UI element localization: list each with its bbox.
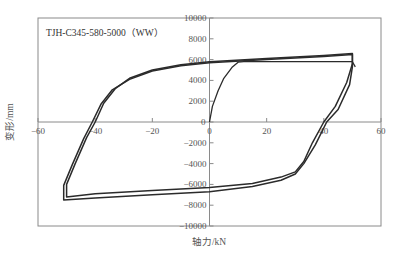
- y-tick-label: −10000: [179, 221, 207, 231]
- y-tick-label: −8000: [183, 200, 207, 210]
- x-tick-label: 60: [377, 126, 387, 136]
- series-line-0: [210, 62, 356, 122]
- x-tick-label: −60: [31, 126, 46, 136]
- x-tick-label: 20: [262, 126, 272, 136]
- x-tick-label: 0: [207, 126, 212, 136]
- y-tick-label: 8000: [189, 34, 208, 44]
- x-tick-label: −20: [145, 126, 160, 136]
- y-tick-label: 10000: [184, 13, 207, 23]
- hysteresis-chart: −60−40−200204060100008000600040002000−20…: [0, 0, 393, 254]
- chart-title: TJH-C345-580-5000（WW）: [46, 27, 164, 38]
- y-tick-label: 4000: [189, 75, 208, 85]
- x-axis-title: 轴力/kN: [192, 236, 226, 247]
- y-tick-label: 2000: [189, 96, 208, 106]
- y-tick-label: −4000: [183, 159, 207, 169]
- y-tick-label-zero: 0: [201, 117, 206, 127]
- y-axis-title: 变形/mm: [4, 103, 15, 141]
- y-tick-label: −2000: [183, 138, 207, 148]
